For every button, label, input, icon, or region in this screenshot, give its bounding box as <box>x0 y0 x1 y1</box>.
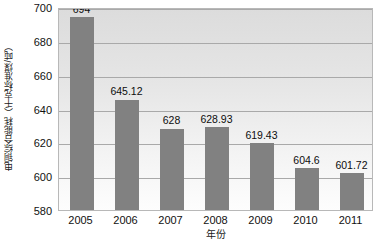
y-axis-tick-label: 640 <box>34 104 52 116</box>
plot-area: 694645.12628628.93619.43604.6601.72 <box>58 8 373 211</box>
x-axis-tick-label: 2008 <box>203 214 227 226</box>
bar-value-label: 601.72 <box>335 160 367 171</box>
bar[interactable] <box>70 17 94 210</box>
x-axis-tick-label: 2005 <box>68 214 92 226</box>
y-axis-tick-label: 580 <box>34 205 52 217</box>
x-axis-title: 年份 <box>58 230 373 240</box>
bar[interactable] <box>295 168 319 210</box>
x-axis-tick-labels: 2005200620072008200920102011 <box>58 214 373 230</box>
bar-slot: 694 <box>59 9 104 210</box>
bar-slot: 619.43 <box>239 9 284 210</box>
y-axis-tick-label: 600 <box>34 171 52 183</box>
bar-slot: 645.12 <box>104 9 149 210</box>
y-axis-tick-label: 620 <box>34 137 52 149</box>
x-axis-tick-label: 2009 <box>248 214 272 226</box>
y-axis-tick-label: 680 <box>34 36 52 48</box>
bar-value-label: 628 <box>163 115 181 126</box>
y-axis-tick-label: 660 <box>34 70 52 82</box>
bar-slot: 628.93 <box>194 9 239 210</box>
bar-value-label: 628.93 <box>200 114 232 125</box>
bars-layer: 694645.12628628.93619.43604.6601.72 <box>59 9 372 210</box>
bar-value-label: 619.43 <box>245 130 277 141</box>
bar[interactable] <box>340 173 364 210</box>
x-axis-tick-label: 2007 <box>158 214 182 226</box>
y-axis-tick-label: 700 <box>34 2 52 14</box>
bar[interactable] <box>160 129 184 210</box>
bar[interactable] <box>205 127 229 210</box>
y-axis-tick-labels: 700680660640620600580 <box>16 0 56 213</box>
bar-chart: 电铜综合能耗（千克标准煤/吨） 700680660640620600580 69… <box>0 0 383 247</box>
bar-slot: 601.72 <box>329 9 373 210</box>
x-axis-tick-label: 2011 <box>339 214 363 226</box>
bar[interactable] <box>115 100 139 210</box>
bar-value-label: 645.12 <box>110 86 142 97</box>
x-axis-tick-label: 2010 <box>293 214 317 226</box>
bar-slot: 604.6 <box>284 9 329 210</box>
bar-slot: 628 <box>149 9 194 210</box>
y-axis-title: 电铜综合能耗（千克标准煤/吨） <box>0 0 16 213</box>
y-axis-title-label: 电铜综合能耗（千克标准煤/吨） <box>4 42 13 171</box>
bar-value-label: 694 <box>73 8 91 14</box>
bar[interactable] <box>250 143 274 210</box>
bar-value-label: 604.6 <box>293 155 319 166</box>
x-axis-tick-label: 2006 <box>113 214 137 226</box>
